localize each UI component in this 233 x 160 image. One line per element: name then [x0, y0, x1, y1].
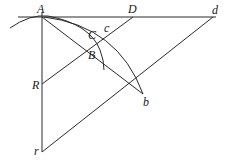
diagram-svg: A D d c C B R b r	[0, 0, 233, 160]
label-B: B	[88, 48, 96, 62]
label-d: d	[212, 3, 219, 17]
label-b: b	[143, 95, 149, 109]
label-A: A	[36, 2, 45, 16]
line-rd	[42, 17, 213, 152]
label-r: r	[34, 144, 39, 158]
geometry-diagram: A D d c C B R b r	[0, 0, 233, 160]
label-R: R	[31, 78, 40, 92]
label-D: D	[127, 2, 137, 16]
label-c: c	[104, 21, 110, 35]
label-C: C	[88, 28, 97, 42]
